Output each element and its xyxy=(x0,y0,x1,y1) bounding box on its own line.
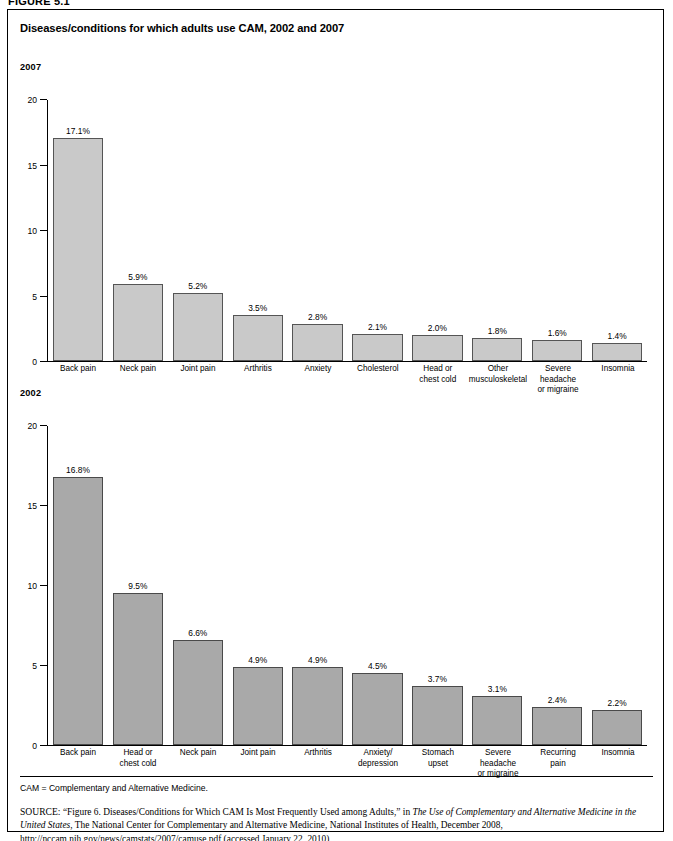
bar: 3.1% xyxy=(472,696,522,745)
bar: 3.7% xyxy=(412,686,462,745)
bar: 3.5% xyxy=(233,315,283,361)
bar: 2.2% xyxy=(592,710,642,745)
year-label-2002: 2002 xyxy=(20,388,41,398)
bar: 2.0% xyxy=(412,335,462,361)
bar-slot: 5.9% xyxy=(108,100,168,361)
y-tick-label-2007-10: 10 xyxy=(27,226,37,236)
bar: 16.8% xyxy=(53,477,103,745)
bar-value-label: 2.2% xyxy=(608,698,627,708)
x-category-label: Insomnia xyxy=(588,748,648,780)
bar-slot: 1.6% xyxy=(527,100,587,361)
bar-slot: 2.4% xyxy=(527,426,587,745)
bar: 1.8% xyxy=(472,338,522,361)
y-tick-2007-15 xyxy=(40,165,47,166)
plot-area-2002: 05101520 16.8%9.5%6.6%4.9%4.9%4.5%3.7%3.… xyxy=(47,426,647,746)
y-tick-label-2002-20: 20 xyxy=(27,421,37,431)
y-tick-2002-15 xyxy=(40,505,47,506)
bar-slot: 5.2% xyxy=(168,100,228,361)
bar: 4.9% xyxy=(233,667,283,745)
x-category-label: Anxiety/depression xyxy=(348,748,408,780)
y-tick-2002-0 xyxy=(40,745,47,746)
y-tick-label-2007-5: 5 xyxy=(32,292,37,302)
y-tick-label-2007-0: 0 xyxy=(32,357,37,367)
bar-slot: 2.2% xyxy=(587,426,647,745)
source-keyword: SOURCE: xyxy=(20,806,61,817)
bar-value-label: 16.8% xyxy=(66,465,90,475)
x-category-label: Joint pain xyxy=(228,748,288,780)
bar-slot: 1.4% xyxy=(587,100,647,361)
bar-slot: 2.1% xyxy=(348,100,408,361)
y-tick-label-2007-15: 15 xyxy=(27,161,37,171)
plot-area-2007: 05101520 17.1%5.9%5.2%3.5%2.8%2.1%2.0%1.… xyxy=(47,100,647,362)
y-tick-2002-10 xyxy=(40,585,47,586)
bar-slot: 3.5% xyxy=(228,100,288,361)
x-category-label: Neck pain xyxy=(168,748,228,780)
y-tick-2007-10 xyxy=(40,230,47,231)
bar-group-2002: 16.8%9.5%6.6%4.9%4.9%4.5%3.7%3.1%2.4%2.2… xyxy=(48,426,647,745)
bar-value-label: 9.5% xyxy=(128,581,147,591)
bar-value-label: 2.4% xyxy=(548,695,567,705)
bar-slot: 1.8% xyxy=(467,100,527,361)
y-tick-2002-5 xyxy=(40,665,47,666)
bar: 17.1% xyxy=(53,138,103,361)
bar-value-label: 2.0% xyxy=(428,323,447,333)
bar: 4.9% xyxy=(292,667,342,745)
bar-slot: 4.9% xyxy=(228,426,288,745)
bar-slot: 3.1% xyxy=(467,426,527,745)
x-category-label: Stomachupset xyxy=(408,748,468,780)
source-text-1: “Figure 6. Diseases/Conditions for Which… xyxy=(61,807,413,817)
bar-slot: 6.6% xyxy=(168,426,228,745)
bar: 2.4% xyxy=(532,707,582,745)
bar: 1.6% xyxy=(532,340,582,361)
source-text-2: , The National Center for Complementary … xyxy=(20,820,503,841)
chart-panel-2002: 2002 05101520 16.8%9.5%6.6%4.9%4.9%4.5%3… xyxy=(8,388,665,783)
x-category-label: Severeheadacheor migraine xyxy=(468,748,528,780)
bar-value-label: 5.2% xyxy=(188,281,207,291)
bar-value-label: 1.6% xyxy=(548,328,567,338)
x-category-label: Back pain xyxy=(48,748,108,780)
x-category-labels-2002: Back painHead orchest coldNeck painJoint… xyxy=(48,748,648,780)
footnote-divider xyxy=(20,776,653,777)
bar-slot: 2.8% xyxy=(288,100,348,361)
y-tick-label-2002-0: 0 xyxy=(32,741,37,751)
bar-slot: 2.0% xyxy=(407,100,467,361)
x-axis-2002 xyxy=(47,745,647,746)
x-axis-2007 xyxy=(47,361,647,362)
y-tick-label-2002-10: 10 xyxy=(27,581,37,591)
y-tick-2002-20 xyxy=(40,425,47,426)
figure-frame: Diseases/conditions for which adults use… xyxy=(7,9,664,832)
bar-value-label: 3.7% xyxy=(428,674,447,684)
bar-group-2007: 17.1%5.9%5.2%3.5%2.8%2.1%2.0%1.8%1.6%1.4… xyxy=(48,100,647,361)
bar: 6.6% xyxy=(173,640,223,745)
bar: 2.8% xyxy=(292,324,342,361)
bar: 1.4% xyxy=(592,343,642,361)
x-category-label: Head orchest cold xyxy=(108,748,168,780)
y-tick-label-2002-5: 5 xyxy=(32,661,37,671)
bar-value-label: 3.1% xyxy=(488,684,507,694)
y-tick-2007-20 xyxy=(40,99,47,100)
bar-value-label: 2.8% xyxy=(308,312,327,322)
x-category-label: Arthritis xyxy=(288,748,348,780)
bar-value-label: 5.9% xyxy=(128,272,147,282)
bar-slot: 4.5% xyxy=(348,426,408,745)
bar-value-label: 17.1% xyxy=(66,126,90,136)
bar: 4.5% xyxy=(352,673,402,745)
bar-value-label: 3.5% xyxy=(248,303,267,313)
bar-value-label: 4.9% xyxy=(308,655,327,665)
bar-value-label: 1.4% xyxy=(608,331,627,341)
bar-value-label: 4.9% xyxy=(248,655,267,665)
y-tick-label-2007-20: 20 xyxy=(27,95,37,105)
y-tick-label-2002-15: 15 xyxy=(27,501,37,511)
bar-value-label: 6.6% xyxy=(188,628,207,638)
bar-slot: 3.7% xyxy=(407,426,467,745)
bar-slot: 17.1% xyxy=(48,100,108,361)
y-tick-2007-5 xyxy=(40,296,47,297)
x-category-label: Recurringpain xyxy=(528,748,588,780)
figure-label: FIGURE 5.1 xyxy=(8,0,70,7)
source-note: SOURCE: “Figure 6. Diseases/Conditions f… xyxy=(20,805,654,841)
bar: 2.1% xyxy=(352,334,402,361)
page-title: Diseases/conditions for which adults use… xyxy=(20,22,344,34)
abbreviation-note: CAM = Complementary and Alternative Medi… xyxy=(20,783,208,793)
bar-value-label: 1.8% xyxy=(488,326,507,336)
bar-value-label: 2.1% xyxy=(368,322,387,332)
